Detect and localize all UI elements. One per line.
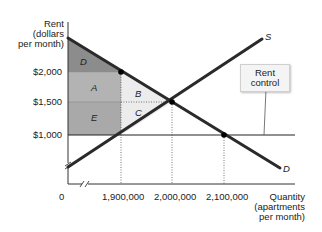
x-tick-2100000: 2,100,000 (206, 192, 248, 202)
demand-label: D (283, 164, 290, 174)
y-tick-1500: $1,500 (33, 97, 62, 107)
rent-control-callout: Rent control (240, 64, 290, 92)
y-tick-2000: $2,000 (33, 67, 62, 77)
x-tick-2000000: 2,000,000 (154, 192, 196, 202)
area-a-label: A (91, 83, 97, 93)
x-axis-title-line3: per month) (259, 212, 305, 222)
area-e-label: E (91, 113, 97, 123)
point-1900-2000 (118, 69, 124, 75)
supply-label: S (265, 32, 271, 42)
y-tick-1000: $1,000 (33, 130, 62, 140)
area-c-label: C (135, 108, 142, 118)
point-2100-1000 (221, 132, 227, 138)
area-b-label: B (135, 89, 141, 99)
y-axis-title-line3: per month) (18, 39, 64, 49)
area-c (121, 102, 172, 135)
rent-control-connector (264, 89, 266, 135)
point-equilibrium (169, 99, 175, 105)
x-tick-1900000: 1,900,000 (102, 192, 144, 202)
x-tick-0: 0 (59, 192, 64, 202)
area-d-label: D (80, 57, 87, 67)
rent-control-label-line2: control (243, 78, 287, 88)
